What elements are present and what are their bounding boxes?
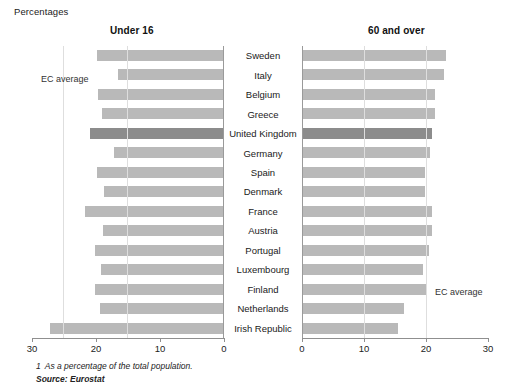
axis-tick [160,338,161,342]
bar-united-kingdom [90,128,224,139]
country-label-luxembourg: Luxembourg [224,260,302,279]
bar-belgium [98,89,224,100]
panel-title-under-16: Under 16 [110,25,154,36]
bar-austria [302,225,432,236]
country-label-netherlands: Netherlands [224,299,302,318]
country-label-germany: Germany [224,143,302,162]
axis-tick [32,338,33,342]
country-label-united-kingdom: United Kingdom [224,124,302,143]
bar-netherlands [100,303,224,314]
bar-row [302,241,488,260]
axis-tick [426,338,427,342]
bar-row [32,241,224,260]
axis-line-right-zero [302,46,303,338]
chart-container: Percentages Under 16 60 and over SwedenI… [0,0,509,389]
footnote: 1As a percentage of the total population… [36,361,193,371]
country-label-portugal: Portugal [224,241,302,260]
bar-row [32,124,224,143]
axis-tick-label: 10 [155,343,166,354]
bar-row [32,260,224,279]
bar-row [32,280,224,299]
axis-tick-label: 0 [299,343,304,354]
bar-row [302,182,488,201]
bar-rows-under-16 [32,46,224,338]
country-label-greece: Greece [224,104,302,123]
bar-spain [97,167,224,178]
bar-portugal [302,245,429,256]
axis-tick [224,338,225,342]
axis-tick [96,338,97,342]
bar-row [302,65,488,84]
bar-sweden [302,50,446,61]
bar-row [302,202,488,221]
bar-france [85,206,224,217]
bar-row [302,124,488,143]
axis-tick-label: 30 [27,343,38,354]
axis-tick-label: 0 [221,343,226,354]
bar-row [302,163,488,182]
ec-average-annotation-right: EC average [435,287,483,297]
bar-row [32,143,224,162]
units-label: Percentages [14,6,68,17]
source-line: Source: Eurostat [36,374,105,384]
bar-row [32,163,224,182]
bar-row [302,143,488,162]
bar-greece [302,108,435,119]
country-label-denmark: Denmark [224,182,302,201]
bar-portugal [95,245,224,256]
axis-tick-label: 20 [421,343,432,354]
bar-row [32,46,224,65]
bar-irish-republic [302,323,398,334]
gridline-right-10 [364,46,365,338]
axis-tick-label: 10 [359,343,370,354]
country-label-spain: Spain [224,163,302,182]
bar-row [32,182,224,201]
axis-tick [364,338,365,342]
bar-belgium [302,89,435,100]
footnote-number: 1 [36,361,41,371]
bar-row [302,104,488,123]
bar-row [302,260,488,279]
axis-tick-label: 20 [91,343,102,354]
bar-luxembourg [101,264,224,275]
bar-united-kingdom [302,128,432,139]
bar-italy [118,69,224,80]
bar-row [32,319,224,338]
plot-area-under-16 [32,46,224,338]
bar-row [32,202,224,221]
country-label-austria: Austria [224,221,302,240]
country-label-finland: Finland [224,280,302,299]
bar-row [32,85,224,104]
country-label-italy: Italy [224,65,302,84]
bar-sweden [97,50,224,61]
bar-germany [302,147,430,158]
bar-row [302,319,488,338]
gridline-left-10 [127,46,128,338]
bar-denmark [104,186,224,197]
x-axis-left [32,338,224,339]
gridline-right-20 [426,46,427,338]
country-label-sweden: Sweden [224,46,302,65]
bar-austria [103,225,224,236]
bar-finland [95,284,224,295]
gridline-left-20 [63,46,64,338]
bar-row [302,299,488,318]
bar-irish-republic [50,323,224,334]
ec-average-annotation-left: EC average [41,74,89,84]
bar-germany [114,147,224,158]
country-label-belgium: Belgium [224,85,302,104]
bar-row [32,221,224,240]
bar-luxembourg [302,264,423,275]
bar-italy [302,69,444,80]
country-label-column: SwedenItalyBelgiumGreeceUnited KingdomGe… [224,46,302,338]
bar-row [32,104,224,123]
axis-tick [302,338,303,342]
country-label-france: France [224,202,302,221]
bar-row [32,299,224,318]
bar-netherlands [302,303,404,314]
x-axis-right [302,338,488,339]
axis-tick [488,338,489,342]
panel-title-60-and-over: 60 and over [368,25,425,36]
bar-row [302,46,488,65]
bar-row [302,221,488,240]
